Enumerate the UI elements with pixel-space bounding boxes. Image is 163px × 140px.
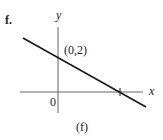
graph-canvas: [0, 0, 163, 140]
origin-label: 0: [50, 96, 56, 108]
x-axis-label: x: [149, 85, 154, 97]
y-intercept-label: (0,2): [64, 44, 87, 56]
panel-letter: f.: [5, 14, 12, 26]
y-axis-label: y: [56, 9, 61, 21]
figure-caption: (f): [76, 121, 88, 133]
graph-figure: f. y x (0,2) 0 (f): [0, 0, 163, 140]
